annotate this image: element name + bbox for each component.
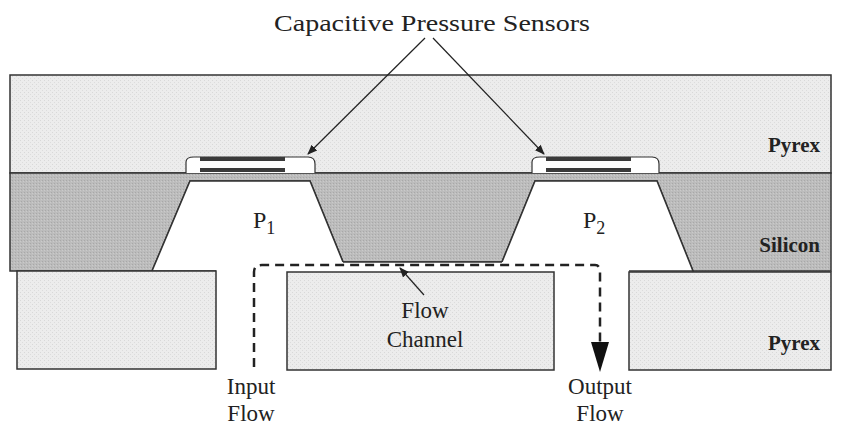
sensor-2-bottom-electrode (546, 168, 631, 172)
title-label: Capacitive Pressure Sensors (274, 11, 590, 36)
capacitive-sensor-2 (532, 157, 659, 173)
p2-symbol: P (583, 207, 596, 233)
p2-subscript: 2 (596, 218, 605, 238)
top-pyrex-layer (10, 75, 831, 173)
silicon-label: Silicon (759, 233, 820, 257)
sensor-1-top-electrode (200, 157, 285, 161)
microfluidic-sensor-diagram: Capacitive Pressure Sensors Pyrex Silico… (0, 0, 846, 437)
flow-channel-gap (216, 262, 629, 272)
bottom-pyrex-label: Pyrex (768, 331, 821, 355)
p1-symbol: P (253, 207, 266, 233)
p1-subscript: 1 (266, 218, 275, 238)
flow-channel-label-line2: Channel (387, 327, 464, 352)
output-flow-arrowhead-icon (591, 342, 609, 372)
flow-channel-label-line1: Flow (401, 298, 449, 323)
silicon-layer (10, 173, 831, 271)
output-flow-label-line1: Output (568, 374, 633, 399)
sensor-1-bottom-electrode (200, 168, 285, 172)
sensor-2-top-electrode (546, 157, 631, 161)
bottom-pyrex-right-block (629, 272, 831, 370)
bottom-pyrex-left-block (17, 271, 216, 369)
input-flow-label-line1: Input (227, 374, 276, 399)
output-flow-label-line2: Flow (576, 401, 624, 426)
input-flow-label-line2: Flow (227, 401, 275, 426)
capacitive-sensor-1 (186, 157, 315, 173)
top-pyrex-label: Pyrex (768, 133, 821, 157)
